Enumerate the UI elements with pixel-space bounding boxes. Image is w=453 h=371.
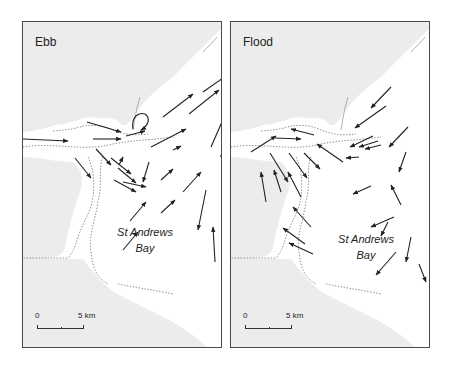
place-label-line1: St Andrews [105,224,185,240]
current-arrow [96,149,111,165]
flood-panel: Flood St Andrews Bay 0 5 km [230,21,430,348]
current-arrow [213,227,215,262]
flood-map [231,22,430,348]
south-land [23,157,82,259]
current-arrow [350,136,373,147]
scale-five-km-label: 5 km [286,311,303,320]
current-arrow [291,129,314,135]
current-arrow [114,180,136,192]
current-arrow [304,153,320,169]
current-arrow [198,190,206,230]
current-arrow [87,122,121,132]
current-arrow [211,115,222,147]
current-arrow [183,172,201,192]
current-arrow [406,237,411,262]
current-arrow [346,157,359,158]
place-label-st-andrews-bay: St Andrews Bay [326,231,406,263]
place-label-line1: St Andrews [326,231,406,247]
current-arrow [126,131,145,136]
scale-zero-label: 0 [35,311,39,320]
current-arrow [275,138,301,139]
current-arrow [161,200,175,213]
current-arrow [163,94,193,117]
current-arrow [391,185,401,205]
current-arrow [353,186,371,194]
current-arrow [289,153,307,178]
place-label-line2: Bay [105,240,185,256]
scale-tick [61,327,62,329]
current-arrow [23,139,68,141]
current-arrow [317,144,343,162]
current-arrow [161,169,173,180]
panel-title-ebb: Ebb [35,35,56,49]
current-arrow [173,146,181,150]
current-arrow [389,127,408,147]
current-arrow [251,136,276,152]
current-arrow [399,152,406,172]
current-arrow [289,243,313,254]
current-arrow [365,145,381,149]
current-arrow [143,162,149,182]
current-arrow [283,228,305,244]
current-arrow [371,217,394,227]
current-arrow [288,172,301,197]
current-arrow [293,207,311,227]
current-arrow [419,264,426,282]
panel-title-flood: Flood [243,35,273,49]
ebb-map [23,22,222,348]
scale-bar: 0 5 km [35,311,95,335]
scale-bar: 0 5 km [243,311,303,335]
current-arrow [371,87,391,108]
current-arrow [130,202,146,221]
current-arrow [355,106,386,128]
scale-tick [269,327,270,329]
current-arrow [203,73,222,92]
current-arrow [119,157,123,165]
tidal-current-figure: Ebb St Andrews Bay 0 5 km [0,0,453,371]
scale-zero-label: 0 [243,311,247,320]
place-label-st-andrews-bay: St Andrews Bay [105,224,185,256]
ebb-panel: Ebb St Andrews Bay 0 5 km [22,21,222,348]
scale-five-km-label: 5 km [78,311,95,320]
place-label-line2: Bay [326,247,406,263]
current-arrow [189,90,219,114]
current-arrow [151,129,186,147]
